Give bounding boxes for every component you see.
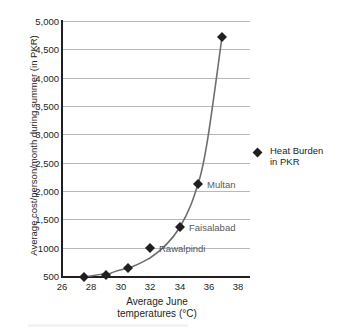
data-point-marker (101, 270, 111, 280)
x-tick-label: 36 (197, 281, 221, 292)
legend-entry-label: Heat Burden in PKR (270, 145, 344, 167)
x-axis-title: Average June temperatures (°C) (62, 296, 252, 320)
data-point-marker-faisalabad (175, 222, 185, 232)
page-artifact (28, 324, 188, 327)
x-axis-title-line2: temperatures (°C) (62, 308, 252, 320)
annotation-rawalpindi: Rawalpindi (159, 243, 205, 254)
x-tick-label: 28 (79, 281, 103, 292)
x-axis-title-line1: Average June (126, 296, 188, 307)
x-tick-label: 26 (50, 281, 74, 292)
annotation-multan: Multan (207, 179, 236, 190)
data-point-marker-rawalpindi (145, 243, 155, 253)
x-tick-label: 34 (168, 281, 192, 292)
chart-figure: Average cost/person/month during summer … (0, 0, 345, 331)
x-tick-label: 38 (226, 281, 250, 292)
x-tick-label: 32 (138, 281, 162, 292)
x-tick-label: 30 (109, 281, 133, 292)
trend-line (84, 37, 222, 277)
data-point-marker (217, 32, 227, 42)
data-point-marker-multan (193, 179, 203, 189)
data-point-marker (123, 263, 133, 273)
legend-label-line2: in PKR (270, 156, 344, 167)
annotation-faisalabad: Faisalabad (189, 222, 235, 233)
legend-label-line1: Heat Burden (270, 145, 323, 156)
